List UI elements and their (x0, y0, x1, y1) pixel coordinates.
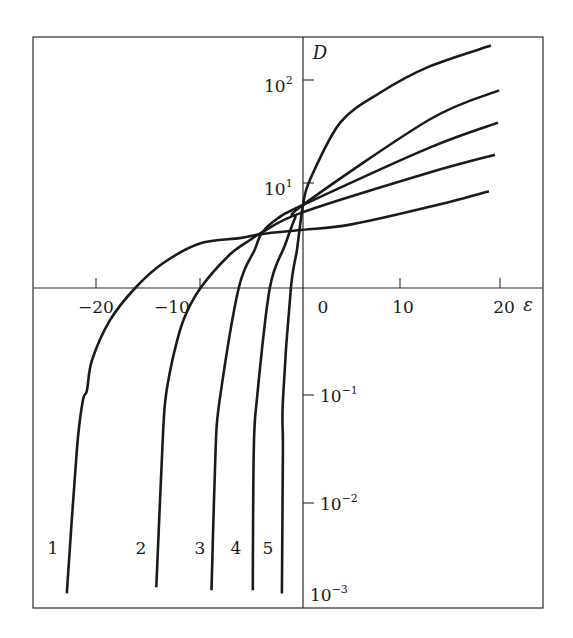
x-tick-labels: −20 −10 0 10 20 (78, 297, 515, 317)
y-axis-title: D (312, 42, 328, 63)
curve-4 (253, 90, 499, 590)
curve-label-2: 2 (136, 538, 147, 558)
curve-label-5: 5 (263, 538, 274, 558)
y-tick-label-1e-2: 10−2 (320, 492, 358, 514)
y-tick-label-1e-1: 10−1 (320, 384, 358, 406)
curve-label-3: 3 (195, 538, 206, 558)
curve-5 (282, 46, 491, 594)
curve-3 (212, 123, 499, 591)
curve-label-1: 1 (48, 538, 59, 558)
x-tick-label: 10 (392, 297, 414, 317)
curves (67, 46, 499, 594)
chart: −20 −10 0 10 20 ε 102 101 10−1 10−2 10−3… (0, 0, 573, 638)
x-axis-title: ε (523, 294, 533, 315)
y-tick-label-1e-3: 10−3 (310, 583, 348, 605)
curve-2 (156, 155, 495, 587)
curve-label-4: 4 (231, 538, 242, 558)
curve-1 (67, 191, 489, 593)
x-tick-label: 20 (493, 297, 515, 317)
y-ticks (303, 80, 314, 503)
x-tick-label: −20 (78, 297, 114, 317)
curve-labels: 1 2 3 4 5 (48, 538, 274, 558)
y-tick-labels: 102 101 10−1 10−2 10−3 (264, 74, 358, 605)
y-tick-label-1e1: 101 (264, 177, 293, 199)
y-tick-label-1e2: 102 (264, 74, 293, 96)
x-ticks (96, 278, 500, 288)
x-tick-label: 0 (318, 297, 329, 317)
